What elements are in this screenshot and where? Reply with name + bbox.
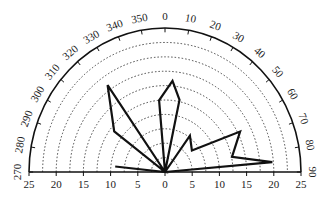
angular-tick-label: 90	[307, 167, 319, 179]
angular-tick-mark	[210, 37, 211, 41]
angular-tick-label: 340	[105, 17, 125, 34]
angular-tick-label: 60	[285, 86, 301, 102]
radial-tick-label: 10	[214, 178, 226, 190]
angular-tick-mark	[250, 62, 253, 65]
grid-arc	[43, 42, 288, 172]
angular-tick-label: 70	[296, 111, 311, 126]
angular-tick-label: 270	[11, 163, 23, 180]
angular-tick-label: 330	[81, 27, 102, 46]
angular-tick-mark	[118, 37, 119, 41]
radial-tick-label: 10	[105, 178, 117, 190]
radial-tick-label: 5	[189, 178, 195, 190]
radial-tick-label: 0	[162, 178, 168, 190]
radial-gridlines	[43, 42, 288, 172]
angular-tick-mark	[279, 100, 283, 102]
angular-tick-label: 0	[162, 10, 168, 22]
angular-tick-label: 300	[28, 83, 47, 104]
angular-tick-mark	[37, 123, 41, 124]
radial-tick-label: 20	[268, 178, 280, 190]
radial-tick-label: 20	[51, 178, 63, 190]
angular-tick-mark	[141, 30, 142, 34]
angular-tick-label: 30	[231, 29, 247, 45]
angular-tick-label: 290	[18, 108, 35, 128]
angular-tick-label: 280	[12, 135, 27, 154]
angular-tick-label: 50	[270, 63, 287, 80]
angular-tick-mark	[266, 79, 269, 82]
angular-tick-mark	[188, 30, 189, 34]
angular-tick-label: 40	[252, 44, 269, 61]
angular-tick-label: 20	[208, 18, 223, 33]
angular-tick-label: 310	[42, 61, 62, 82]
radial-tick-label: 25	[296, 178, 308, 190]
angular-tick-mark	[78, 62, 81, 65]
angular-tick-mark	[61, 79, 64, 82]
radial-tick-label: 25	[24, 178, 36, 190]
angular-tick-labels: 2702802903003103203303403500102030405060…	[11, 10, 318, 181]
angular-tick-mark	[97, 47, 99, 51]
radial-tick-labels: 2520151050510152025	[24, 178, 308, 190]
angular-tick-mark	[231, 47, 233, 51]
rose-series	[108, 81, 273, 172]
angular-tick-mark	[47, 100, 51, 102]
radial-tick-label: 15	[241, 178, 253, 190]
angular-tick-mark	[289, 123, 293, 124]
angular-tick-label: 350	[130, 11, 149, 26]
data-series-polygon	[108, 81, 273, 172]
radial-tick-label: 15	[78, 178, 90, 190]
polar-chart: 2702802903003103203303403500102030405060…	[0, 0, 332, 203]
radial-tick-label: 5	[135, 178, 141, 190]
angular-tick-label: 10	[184, 11, 197, 25]
angular-tick-label: 80	[304, 138, 318, 151]
angular-tick-label: 320	[60, 42, 81, 62]
